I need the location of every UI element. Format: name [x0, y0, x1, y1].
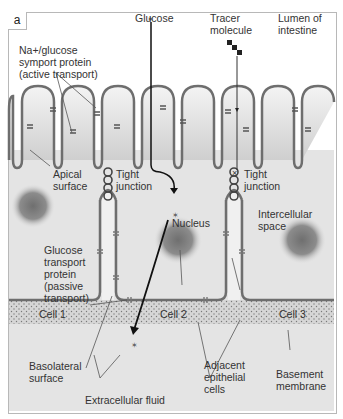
label-tight-junction-1: Tight junction: [116, 168, 152, 192]
label-nucleus: Nucleus: [172, 217, 210, 229]
label-glucose-transport: Glucose transport protein (passive trans…: [44, 244, 89, 304]
label-apical: Apical surface: [53, 168, 87, 192]
label-cell1: Cell 1: [39, 308, 66, 320]
label-glucose: Glucose: [135, 12, 174, 24]
panel-label: a: [8, 12, 27, 30]
label-adjacent: Adjacent epithelial cells: [204, 359, 245, 395]
label-cell3: Cell 3: [279, 308, 306, 320]
label-symport: Na+/glucose symport protein (active tran…: [19, 44, 98, 80]
label-intercellular: Intercellular space: [258, 208, 312, 232]
label-lumen: Lumen of intestine: [278, 12, 322, 36]
svg-text:✶: ✶: [131, 341, 138, 350]
label-tracer: Tracer molecule: [210, 12, 252, 36]
tracer-molecule: [227, 40, 242, 55]
apical-membrane: [9, 86, 334, 160]
svg-text:×: ×: [232, 168, 237, 178]
label-basement: Basement membrane: [276, 368, 326, 392]
label-extracellular: Extracellular fluid: [85, 394, 165, 406]
label-cell2: Cell 2: [160, 308, 187, 320]
label-tight-junction-2: Tight junction: [244, 168, 280, 192]
label-basolateral: Basolateral surface: [29, 360, 82, 384]
nucleus-cell1: [11, 184, 55, 228]
